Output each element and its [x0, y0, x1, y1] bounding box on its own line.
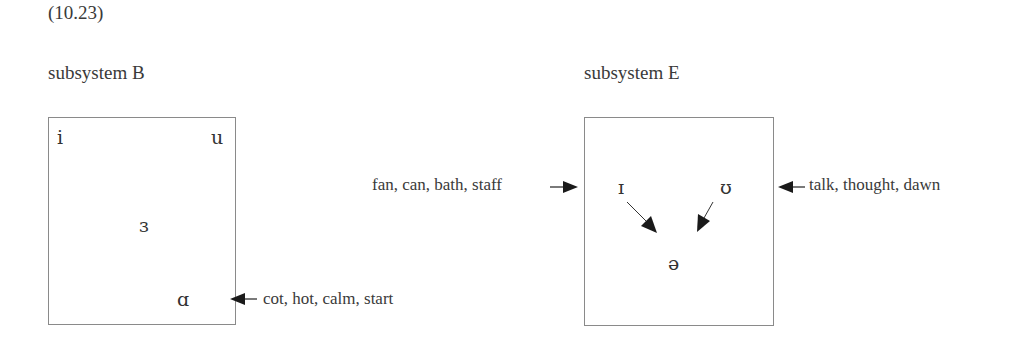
arrows-layer [0, 0, 1030, 342]
arrow-diagonal-down-right-icon [627, 202, 657, 233]
arrow-left-icon [230, 293, 257, 305]
arrow-right-icon [550, 181, 578, 193]
arrow-left-icon [778, 181, 805, 193]
arrow-diagonal-down-left-icon [697, 202, 713, 232]
